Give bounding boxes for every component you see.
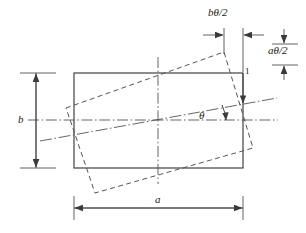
technical-diagram-canvas xyxy=(0,0,306,233)
nominal-rectangle-outline xyxy=(74,73,243,168)
label-b-theta-over-2: bθ/2 xyxy=(208,7,227,18)
label-a-dimension: a xyxy=(155,194,161,205)
nominal-rectangle xyxy=(74,73,243,168)
figure-container: bθ/2 aθ/2 b a θ 1 xyxy=(0,0,306,233)
b-theta-dimension xyxy=(203,28,264,72)
label-theta-angle: θ xyxy=(199,110,204,121)
label-a-theta-over-2: aθ/2 xyxy=(268,45,287,56)
label-b-dimension: b xyxy=(18,114,24,125)
b-dimension xyxy=(20,73,56,168)
label-callout-one: 1 xyxy=(245,67,250,76)
